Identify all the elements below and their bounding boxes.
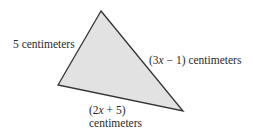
- right-side-label: (3x − 1) centimeters: [149, 54, 241, 67]
- bottom-side-label-line1: (2x + 5): [89, 104, 126, 117]
- bottom-label-suffix: + 5): [104, 104, 126, 116]
- bottom-side-label-line2: centimeters: [89, 117, 142, 130]
- left-side-label: 5 centimeters: [13, 38, 75, 51]
- right-label-suffix: − 1) centimeters: [164, 54, 242, 66]
- right-label-prefix: (3: [149, 54, 159, 66]
- bottom-label-prefix: (2: [89, 104, 99, 116]
